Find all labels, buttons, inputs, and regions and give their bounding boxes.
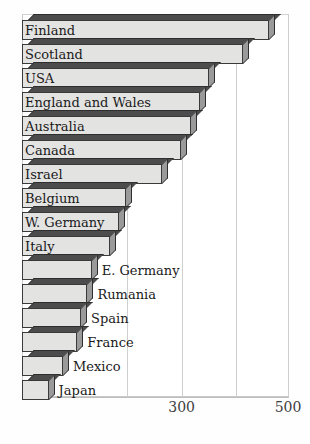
bar-finland: Finland xyxy=(22,20,269,40)
bar-side-face xyxy=(92,254,98,280)
bar-label: Italy xyxy=(25,238,55,255)
bar-label: Rumania xyxy=(97,286,156,303)
bar-side-face xyxy=(87,278,93,304)
bar-front-face xyxy=(22,284,87,304)
bar-side-face xyxy=(243,38,249,64)
bar-italy: Italy xyxy=(22,236,110,256)
bar-side-face xyxy=(119,206,125,232)
bar-side-face xyxy=(162,158,168,184)
bar-side-face xyxy=(200,86,206,112)
bar-label: Spain xyxy=(91,310,129,327)
bar-side-face xyxy=(81,302,87,328)
bar-label: Canada xyxy=(25,142,75,159)
bar-side-face xyxy=(209,62,215,88)
tick-label-300: 300 xyxy=(168,399,195,415)
bar-side-face xyxy=(191,110,197,136)
bar-label: Israel xyxy=(25,166,63,183)
bar-spain: Spain xyxy=(22,308,81,328)
bar-label: Finland xyxy=(25,22,75,39)
bar-label: Mexico xyxy=(73,358,121,375)
bar-israel: Israel xyxy=(22,164,162,184)
bar-side-face xyxy=(181,134,187,160)
bar-scotland: Scotland xyxy=(22,44,243,64)
bar-canada: Canada xyxy=(22,140,181,160)
bar-w-germany: W. Germany xyxy=(22,212,119,232)
bar-side-face xyxy=(126,182,132,208)
bar-label: W. Germany xyxy=(25,214,104,231)
bar-front-face xyxy=(22,356,63,376)
bar-label: Australia xyxy=(25,118,85,135)
bar-label: E. Germany xyxy=(102,262,180,279)
bar-label: Scotland xyxy=(25,46,83,63)
bar-side-face xyxy=(49,374,55,400)
bar-label: USA xyxy=(25,70,54,87)
bar-front-face xyxy=(22,308,81,328)
bar-label: France xyxy=(87,334,133,351)
bar-france: France xyxy=(22,332,77,352)
bar-label: England and Wales xyxy=(25,94,151,111)
tick-label-500: 500 xyxy=(275,399,302,415)
bar-label: Belgium xyxy=(25,190,80,207)
bar-japan: Japan xyxy=(22,380,49,400)
bar-label: Japan xyxy=(59,382,96,399)
bar-chart: FinlandScotlandUSAEngland and WalesAustr… xyxy=(0,0,310,444)
bar-side-face xyxy=(269,14,275,40)
bar-side-face xyxy=(63,350,69,376)
bar-belgium: Belgium xyxy=(22,188,126,208)
bar-front-face xyxy=(22,260,92,280)
bar-series: FinlandScotlandUSAEngland and WalesAustr… xyxy=(0,0,310,444)
bar-usa: USA xyxy=(22,68,209,88)
bar-e-germany: E. Germany xyxy=(22,260,92,280)
bar-front-face xyxy=(22,380,49,400)
bar-rumania: Rumania xyxy=(22,284,87,304)
bar-side-face xyxy=(77,326,83,352)
bar-mexico: Mexico xyxy=(22,356,63,376)
bar-england-and-wales: England and Wales xyxy=(22,92,200,112)
bar-side-face xyxy=(110,230,116,256)
bar-front-face xyxy=(22,332,77,352)
bar-australia: Australia xyxy=(22,116,191,136)
